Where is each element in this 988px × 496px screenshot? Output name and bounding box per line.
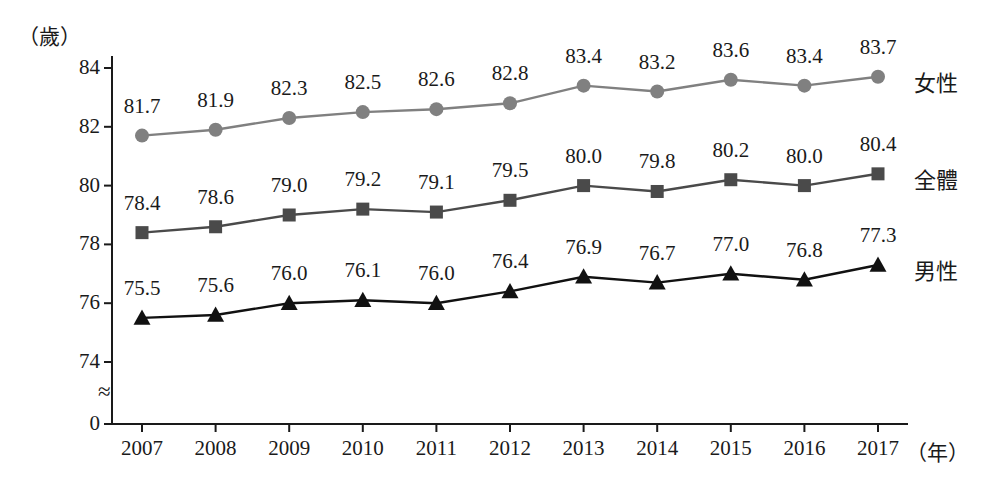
data-point-marker [282,111,296,125]
point-value-label: 81.9 [184,88,248,113]
y-tick-label: 74 [54,349,100,374]
point-value-label: 82.3 [257,76,321,101]
data-point-marker [430,206,443,219]
point-value-label: 76.0 [404,261,468,286]
point-value-label: 76.9 [552,235,616,260]
point-value-label: 80.0 [772,144,836,169]
data-point-marker [575,268,592,283]
point-value-label: 77.3 [846,223,910,248]
data-point-marker [650,85,664,99]
point-value-label: 81.7 [110,94,174,119]
data-point-marker [722,265,739,280]
point-value-label: 76.4 [478,249,542,274]
data-point-marker [797,79,811,93]
x-tick-label: 2009 [250,436,328,461]
point-value-label: 76.8 [772,238,836,263]
point-value-label: 78.6 [184,185,248,210]
point-value-label: 82.8 [478,61,542,86]
data-point-marker [871,70,885,84]
point-value-label: 83.7 [846,35,910,60]
data-point-marker [504,194,517,207]
axis-break-mark: ≈ [98,380,111,403]
data-point-marker [651,185,664,198]
data-point-marker [503,96,517,110]
data-point-marker [356,203,369,216]
data-point-marker [283,209,296,222]
y-tick-label: 80 [54,173,100,198]
point-value-label: 76.0 [257,261,321,286]
point-value-label: 78.4 [110,191,174,216]
point-value-label: 75.6 [184,273,248,298]
point-value-label: 82.5 [331,70,395,95]
x-tick-label: 2014 [618,436,696,461]
y-tick-label: 76 [54,290,100,315]
data-point-marker [798,179,811,192]
y-tick-label: 78 [54,231,100,256]
point-value-label: 83.4 [552,44,616,69]
point-value-label: 80.2 [699,138,763,163]
life-expectancy-line-chart: （歲） 0747678808284 2007200820092010201120… [0,0,988,496]
point-value-label: 75.5 [110,276,174,301]
y-tick-label: 84 [54,55,100,80]
point-value-label: 80.4 [846,132,910,157]
x-tick-label: 2016 [765,436,843,461]
x-tick-label: 2008 [177,436,255,461]
data-point-marker [577,79,591,93]
x-tick-label: 2015 [692,436,770,461]
point-value-label: 79.0 [257,173,321,198]
data-point-marker [870,256,887,271]
point-value-label: 80.0 [552,144,616,169]
point-value-label: 83.2 [625,50,689,75]
point-value-label: 83.4 [772,44,836,69]
data-point-marker [209,220,222,233]
point-value-label: 83.6 [699,38,763,63]
data-point-marker [577,179,590,192]
data-point-marker [136,226,149,239]
x-axis-unit-label: （年） [906,436,969,466]
data-point-marker [429,102,443,116]
point-value-label: 79.1 [404,170,468,195]
data-point-marker [872,167,885,180]
data-point-marker [724,73,738,87]
point-value-label: 79.2 [331,167,395,192]
data-point-marker [135,129,149,143]
data-point-marker [724,173,737,186]
series-label-1: 全體 [914,162,958,194]
series-label-2: 男性 [914,253,958,285]
x-tick-label: 2012 [471,436,549,461]
x-tick-label: 2007 [103,436,181,461]
x-tick-label: 2013 [545,436,623,461]
point-value-label: 82.6 [404,67,468,92]
series-label-0: 女性 [914,65,958,97]
x-tick-label: 2011 [397,436,475,461]
point-value-label: 79.8 [625,149,689,174]
point-value-label: 77.0 [699,232,763,257]
y-tick-label: 0 [54,411,100,436]
point-value-label: 76.1 [331,258,395,283]
point-value-label: 79.5 [478,158,542,183]
point-value-label: 76.7 [625,241,689,266]
data-point-marker [209,123,223,137]
x-tick-label: 2010 [324,436,402,461]
y-tick-label: 82 [54,114,100,139]
data-point-marker [356,105,370,119]
